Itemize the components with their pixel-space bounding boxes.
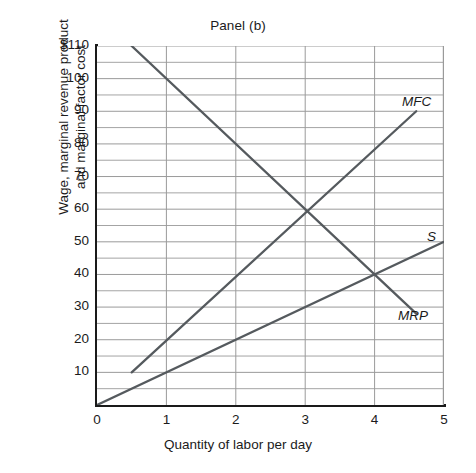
series-line-mrp <box>132 46 417 314</box>
y-tick-label: 90 <box>33 102 89 117</box>
x-tick-label: 5 <box>424 412 464 427</box>
chart-figure: Panel (b) Wage, marginal revenue product… <box>0 0 476 473</box>
y-tick-label: 100 <box>33 70 89 85</box>
y-tick-label: 10 <box>33 363 89 378</box>
x-tick-label: 1 <box>146 412 186 427</box>
y-axis-tick-labels: 102030405060708090100$110 <box>33 0 89 473</box>
plot-area <box>97 46 444 405</box>
x-tick-label: 0 <box>77 412 117 427</box>
y-tick-label: 40 <box>33 265 89 280</box>
curve-label-mrp: MRP <box>398 308 428 323</box>
y-tick-label: 50 <box>33 233 89 248</box>
y-tick-label: $110 <box>33 37 89 52</box>
gridlines <box>97 46 444 405</box>
curve-label-mfc: MFC <box>402 94 431 109</box>
y-tick-label: 80 <box>33 135 89 150</box>
plot-svg <box>97 46 444 405</box>
curve-label-s: S <box>427 229 436 244</box>
x-tick-label: 2 <box>216 412 256 427</box>
x-tick-label: 4 <box>355 412 395 427</box>
y-tick-label: 70 <box>33 168 89 183</box>
x-tick-label: 3 <box>285 412 325 427</box>
y-tick-label: 60 <box>33 200 89 215</box>
y-tick-label: 30 <box>33 298 89 313</box>
y-tick-label: 20 <box>33 331 89 346</box>
